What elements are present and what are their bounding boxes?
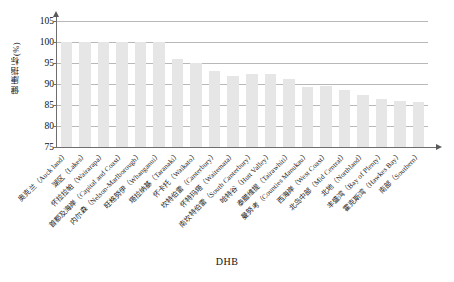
bar <box>265 74 277 147</box>
y-axis-tickmark <box>53 147 56 148</box>
bar <box>320 86 332 147</box>
bar <box>61 42 73 147</box>
bar <box>98 42 110 147</box>
y-axis-tickmark <box>53 42 56 43</box>
bar <box>413 102 425 147</box>
bar <box>302 87 314 147</box>
y-axis-title: 健康指标(%) <box>12 42 26 94</box>
bar <box>172 59 184 147</box>
bar <box>153 42 165 147</box>
y-axis-tickmark <box>53 126 56 127</box>
y-axis-tick-label: 105 <box>40 17 54 27</box>
y-axis-tickmark <box>53 63 56 64</box>
y-axis-tick-labels: 7580859095100105 <box>28 15 54 153</box>
y-axis-tickmark <box>53 84 56 85</box>
y-axis-arrow-icon <box>53 11 59 17</box>
bar <box>79 42 91 147</box>
bar <box>209 71 221 147</box>
y-axis-tick-label: 100 <box>40 38 54 48</box>
bar <box>116 42 128 147</box>
bar <box>190 63 202 147</box>
bar <box>227 76 239 147</box>
bar <box>246 74 258 147</box>
bar <box>135 42 147 147</box>
bar <box>357 95 369 148</box>
x-axis-tick-labels: 奥克兰（Auck land）湖区（Lakes）怀拉拉帕（Wairarapa）首都… <box>0 149 454 259</box>
bar <box>283 79 295 147</box>
x-axis-title: DHB <box>0 256 454 267</box>
y-axis-tickmark <box>53 105 56 106</box>
y-axis-tickmark <box>53 21 56 22</box>
bar <box>394 101 406 147</box>
bar <box>339 90 351 147</box>
x-axis-line <box>56 147 437 148</box>
bar-series <box>57 21 428 147</box>
bar-chart: 健康指标(%) 7580859095100105 奥克兰（Auck land）湖… <box>0 0 454 282</box>
bar <box>376 99 388 147</box>
